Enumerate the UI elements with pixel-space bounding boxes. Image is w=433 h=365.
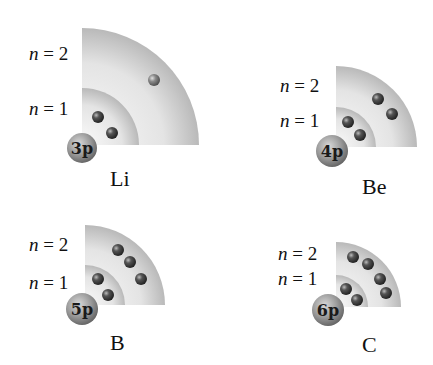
shell-label-n1-c: n = 1 [278,269,317,288]
element-symbol-b: B [110,332,125,354]
electron-icon [354,129,366,141]
electron-icon [112,244,124,256]
electron-icon [351,294,363,306]
electron-icon [362,258,374,270]
shell-label-n2-be: n = 2 [280,76,319,95]
shell-label-n2-li: n = 2 [29,44,68,63]
electron-icon [135,273,147,285]
nucleus-label-c: 6p [317,301,339,320]
electron-icon [372,93,384,105]
electron-icon [102,289,114,301]
electron-icon [340,283,352,295]
electron-icon [92,273,104,285]
electron-icon [106,127,118,139]
element-symbol-c: C [362,334,377,356]
shell-label-n1-li: n = 1 [29,99,68,118]
electron-icon [342,116,354,128]
nucleus-label-be: 4p [321,142,343,161]
element-symbol-be: Be [362,176,386,198]
shell-label-n2-b: n = 2 [29,235,68,254]
electron-icon [124,256,136,268]
shell-label-n1-be: n = 1 [280,111,319,130]
electron-icon [347,251,359,263]
shell-label-n1-b: n = 1 [29,273,68,292]
element-symbol-li: Li [110,168,130,190]
nucleus-label-b: 5p [71,300,93,319]
electron-icon [386,108,398,120]
electron-icon [374,273,386,285]
electron-icon [92,111,104,123]
nucleus-label-li: 3p [71,139,93,158]
electron-icon [380,287,392,299]
shell-label-n2-c: n = 2 [278,244,317,263]
electron-icon [148,74,160,86]
